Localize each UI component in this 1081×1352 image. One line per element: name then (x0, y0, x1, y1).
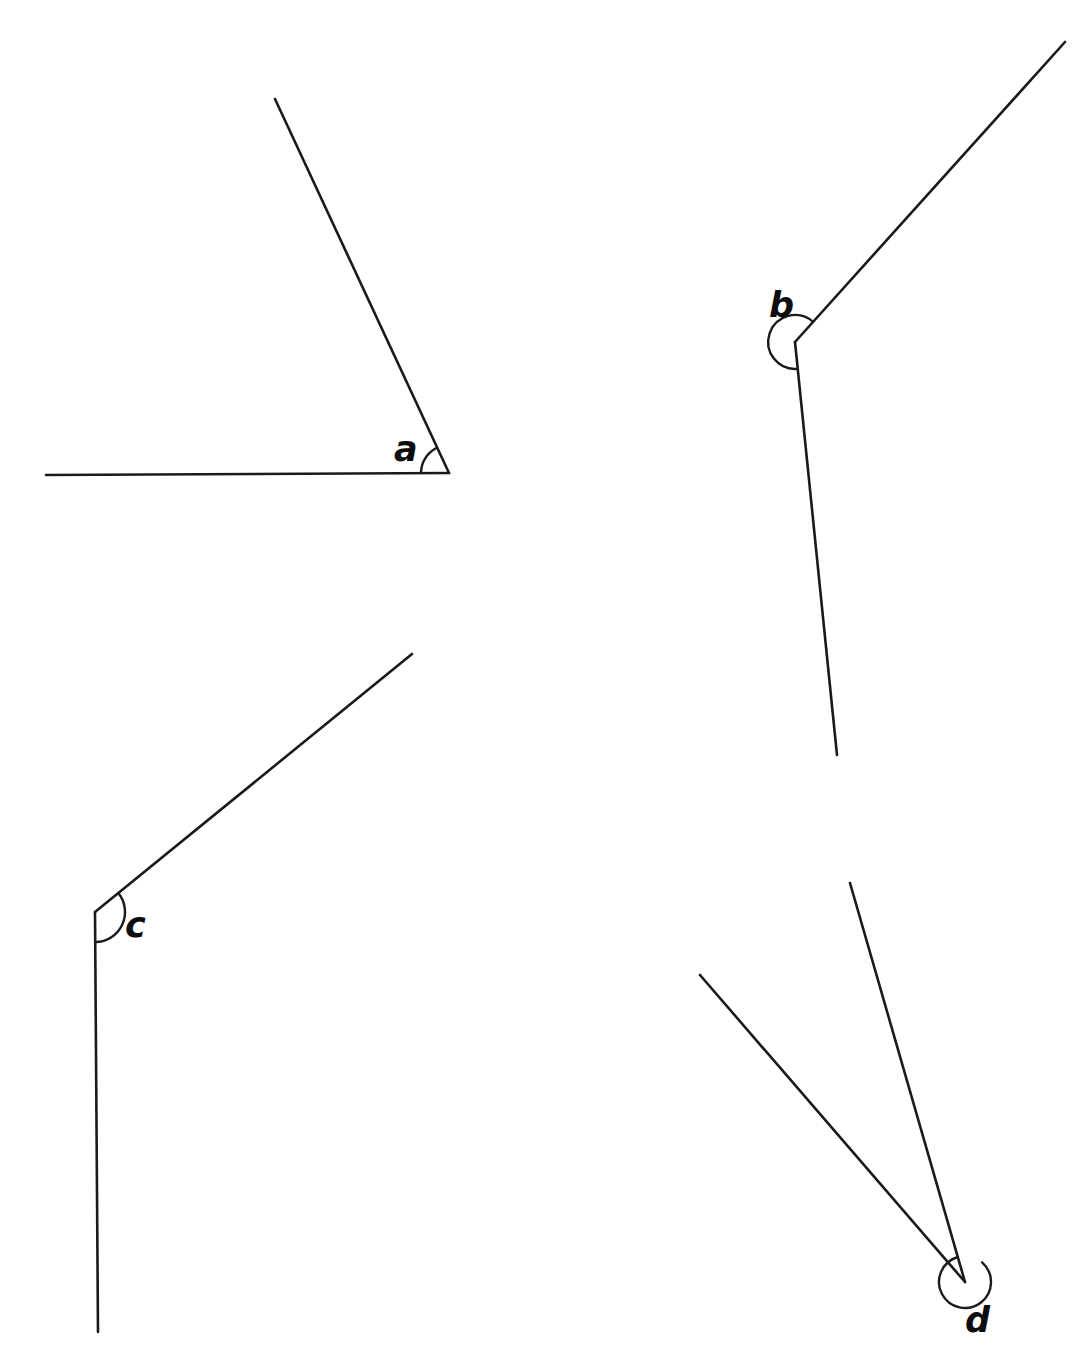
angle-label-b: b (769, 288, 794, 323)
figure-c-upper-right-slant-ray (95, 654, 412, 912)
figure-a-angle-arc (421, 448, 436, 473)
figure-a-group (46, 99, 449, 475)
figure-c-group (95, 654, 412, 1332)
worksheet-page: a b c d (0, 0, 1081, 1352)
figure-d-group (700, 883, 991, 1308)
figure-b-group (768, 42, 1065, 755)
figure-a-horizontal-left-ray (46, 473, 449, 475)
figure-b-lower-slant-ray (795, 342, 837, 755)
figure-d-upper-left-shallow-ray (700, 975, 965, 1282)
angles-figure-canvas (0, 0, 1081, 1352)
figure-c-downward-ray (95, 912, 98, 1332)
figure-a-upper-left-slant-ray (275, 99, 449, 473)
angle-label-a: a (394, 432, 418, 467)
angle-label-c: c (125, 908, 146, 943)
figure-d-upper-left-steep-ray (850, 883, 965, 1282)
angle-label-d: d (965, 1303, 990, 1338)
figure-b-upper-right-slant-ray (795, 42, 1065, 342)
